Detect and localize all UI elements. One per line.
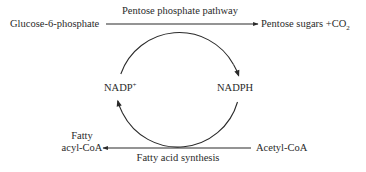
glucose-6-phosphate-label: Glucose-6-phosphate [10,18,99,30]
fatty-acid-synthesis-label: Fatty acid synthesis [137,152,220,164]
co2-subscript: 2 [346,24,350,32]
acetyl-coa-label: Acetyl-CoA [256,142,307,154]
pentose-sugars-co2-label: Pentose sugars +CO2 [261,18,350,30]
nadp-plus-superscript: + [133,81,137,89]
nadp-plus-label: NADP+ [104,82,137,94]
nadph-label: NADPH [217,82,253,94]
cycle-arc-upper-to-nadph [234,65,239,76]
cycle-arc-lower-to-nadp [118,101,123,113]
nadp-text: NADP [104,82,133,93]
metabolic-cycle-diagram: Glucose-6-phosphate Pentose phosphate pa… [0,0,366,172]
pentose-phosphate-pathway-label: Pentose phosphate pathway [122,5,238,17]
pentose-sugars-text: Pentose sugars +CO [261,18,346,29]
cycle-arc-lower [123,102,238,147]
fatty-acyl-coa-line1: Fatty [62,130,103,142]
fatty-acyl-coa-label: Fatty acyl-CoA [62,130,103,154]
fatty-acyl-coa-line2: acyl-CoA [62,142,103,154]
cycle-arc-upper [121,33,234,74]
